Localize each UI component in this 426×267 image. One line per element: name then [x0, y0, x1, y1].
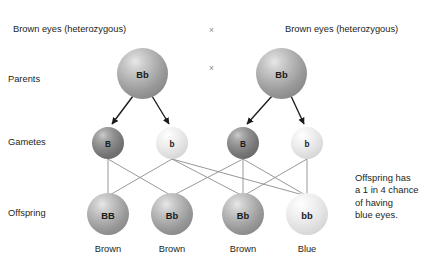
gamete-4-allele: b	[304, 139, 309, 148]
offspring-sphere-4: bb	[286, 193, 328, 235]
gamete-1-allele: B	[105, 139, 111, 148]
parent-to-gamete-arrows	[0, 0, 426, 267]
offspring-1-genotype: BB	[101, 209, 115, 220]
punnett-square-diagram: Brown eyes (heterozygous) Brown eyes (he…	[0, 0, 426, 267]
parent-2-genotype: Bb	[275, 69, 288, 80]
offspring-sphere-1: BB	[87, 193, 129, 235]
gamete-sphere-1: B	[92, 127, 124, 159]
arrow-p2-g4	[291, 96, 304, 124]
gamete-sphere-4: b	[291, 127, 323, 159]
offspring-sphere-2: Bb	[151, 193, 193, 235]
arrow-p2-g3	[247, 96, 272, 124]
parent-1-genotype: Bb	[136, 69, 149, 80]
arrow-p1-g2	[152, 96, 169, 124]
arrow-p1-g1	[112, 96, 133, 124]
parent-sphere-1: Bb	[117, 48, 168, 99]
offspring-sphere-3: Bb	[222, 193, 264, 235]
parent-sphere-2: Bb	[256, 48, 307, 99]
gamete-3-allele: B	[240, 139, 246, 148]
gamete-2-allele: b	[169, 139, 174, 148]
gamete-sphere-2: b	[156, 127, 188, 159]
offspring-4-genotype: bb	[301, 209, 313, 220]
offspring-2-genotype: Bb	[166, 209, 179, 220]
offspring-3-genotype: Bb	[237, 209, 250, 220]
gamete-sphere-3: B	[227, 127, 259, 159]
